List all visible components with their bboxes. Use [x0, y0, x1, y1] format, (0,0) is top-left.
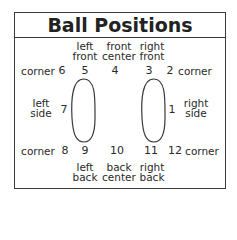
position-3: 3	[144, 65, 154, 76]
position-1: 1	[167, 104, 177, 115]
position-6: 6	[57, 65, 67, 76]
position-2: 2	[165, 65, 175, 76]
right-foot-icon	[142, 79, 165, 142]
label-corner-bottom-left: corner	[20, 146, 56, 156]
left-foot-icon	[72, 79, 95, 142]
position-8: 8	[60, 145, 70, 156]
label-corner-top-left: corner	[20, 66, 56, 76]
position-4: 4	[110, 65, 120, 76]
label-right-front: rightfront	[136, 41, 168, 61]
position-5: 5	[80, 65, 90, 76]
label-right-back: rightback	[136, 162, 168, 182]
label-left-side: leftside	[28, 98, 54, 118]
position-11: 11	[143, 145, 159, 156]
position-10: 10	[109, 145, 125, 156]
position-7: 7	[59, 104, 69, 115]
label-corner-bottom-right: corner	[184, 146, 220, 156]
label-right-side: rightside	[183, 98, 209, 118]
position-12: 12	[167, 145, 183, 156]
label-corner-top-right: corner	[177, 66, 213, 76]
position-9: 9	[80, 145, 90, 156]
